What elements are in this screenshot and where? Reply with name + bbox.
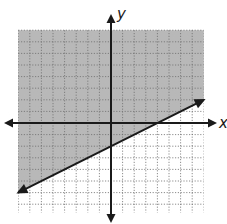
x-axis-right-arrow-icon (208, 119, 217, 128)
x-axis-left-arrow-icon (4, 119, 13, 128)
y-axis-label: y (116, 5, 127, 23)
y-axis-up-arrow-icon (107, 14, 116, 23)
y-axis-down-arrow-icon (107, 214, 116, 223)
x-axis-label: x (218, 114, 227, 132)
coordinate-graph: x y (0, 0, 227, 224)
